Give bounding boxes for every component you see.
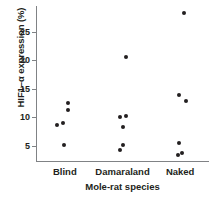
y-tick-label: 25 xyxy=(20,27,30,37)
y-tick-label: 5 xyxy=(25,141,30,151)
data-point xyxy=(121,125,125,129)
data-point xyxy=(61,121,65,125)
y-tick-mark xyxy=(32,60,36,61)
y-axis-spine xyxy=(36,6,37,162)
data-point xyxy=(118,115,122,119)
y-tick-label: 10 xyxy=(20,112,30,122)
data-point xyxy=(184,99,188,103)
x-tick-label-damaraland: Damaraland xyxy=(95,166,149,177)
data-point xyxy=(177,93,181,97)
x-tick-label-naked: Naked xyxy=(166,166,195,177)
data-point xyxy=(66,101,70,105)
y-tick-label: 20 xyxy=(20,55,30,65)
data-point xyxy=(121,143,125,147)
data-point xyxy=(182,11,186,15)
plot-area: 510152025 xyxy=(36,6,209,162)
scatter-plot-figure: HIF1–α expression (%) 510152025 BlindDam… xyxy=(0,0,213,198)
x-axis-spine xyxy=(36,161,209,162)
data-point xyxy=(55,123,59,127)
data-point xyxy=(177,141,181,145)
x-axis-label: Mole-rat species xyxy=(36,181,209,192)
y-tick-mark xyxy=(32,32,36,33)
data-point xyxy=(62,143,66,147)
data-point xyxy=(176,153,180,157)
y-tick-mark xyxy=(32,89,36,90)
x-axis-tick-labels: BlindDamaralandNaked xyxy=(36,166,209,180)
data-point xyxy=(118,148,122,152)
data-point xyxy=(180,151,184,155)
data-point xyxy=(124,55,128,59)
y-tick-mark xyxy=(32,117,36,118)
data-point xyxy=(124,114,128,118)
x-tick-label-blind: Blind xyxy=(53,166,77,177)
y-tick-mark xyxy=(32,146,36,147)
y-tick-label: 15 xyxy=(20,84,30,94)
data-point xyxy=(66,108,70,112)
